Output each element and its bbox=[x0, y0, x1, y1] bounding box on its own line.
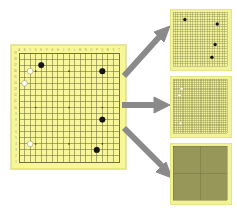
svg-text:19: 19 bbox=[14, 51, 17, 55]
svg-text:10: 10 bbox=[14, 106, 17, 110]
svg-text:H: H bbox=[57, 48, 59, 52]
board-grid-svg: ABCDEFGHJKLMNOPQRST191817161514131211109… bbox=[11, 45, 124, 167]
panel-fine-grid-svg bbox=[170, 143, 230, 203]
svg-text:17: 17 bbox=[14, 63, 17, 67]
svg-text:8: 8 bbox=[15, 118, 17, 122]
svg-text:N: N bbox=[85, 48, 87, 52]
panel-coarse-grid-svg bbox=[170, 9, 230, 69]
arrow-down-right-icon bbox=[120, 122, 176, 182]
svg-text:R: R bbox=[107, 48, 109, 52]
svg-text:3: 3 bbox=[15, 148, 17, 152]
svg-text:F: F bbox=[46, 48, 48, 52]
svg-text:B: B bbox=[24, 48, 26, 52]
svg-text:E: E bbox=[40, 48, 42, 52]
panel-mid-grid-svg bbox=[170, 76, 230, 136]
svg-text:6: 6 bbox=[15, 130, 17, 134]
board-grid: ABCDEFGHJKLMNOPQRST191817161514131211109… bbox=[11, 45, 124, 167]
svg-text:18: 18 bbox=[14, 57, 17, 61]
panel-coarse-lines bbox=[173, 12, 227, 66]
go-board[interactable]: ABCDEFGHJKLMNOPQRST191817161514131211109… bbox=[11, 45, 124, 167]
svg-text:K: K bbox=[68, 48, 70, 52]
panel-mid-grid bbox=[170, 76, 230, 136]
arrow-down-right bbox=[120, 122, 176, 182]
svg-text:5: 5 bbox=[15, 136, 17, 140]
svg-text:G: G bbox=[51, 48, 53, 52]
svg-text:13: 13 bbox=[14, 87, 17, 91]
arrow-up-right-icon bbox=[120, 22, 172, 80]
svg-text:D: D bbox=[35, 48, 37, 52]
panel-mid[interactable] bbox=[170, 76, 230, 136]
svg-text:S: S bbox=[113, 48, 115, 52]
svg-text:C: C bbox=[29, 48, 31, 52]
svg-text:14: 14 bbox=[14, 81, 17, 85]
svg-text:9: 9 bbox=[15, 112, 17, 116]
svg-text:15: 15 bbox=[14, 75, 17, 79]
panel-fine-grid bbox=[170, 143, 230, 203]
svg-text:A: A bbox=[18, 48, 20, 52]
figure-canvas: ABCDEFGHJKLMNOPQRST191817161514131211109… bbox=[0, 0, 237, 213]
arrow-up-right bbox=[120, 22, 172, 80]
panel-coarse-grid bbox=[170, 9, 230, 69]
panel-fine[interactable] bbox=[170, 143, 230, 203]
panel-coarse[interactable] bbox=[170, 9, 230, 69]
panel-fine-lines bbox=[173, 146, 227, 200]
svg-text:P: P bbox=[96, 48, 98, 52]
svg-text:16: 16 bbox=[14, 69, 17, 73]
arrow-right-icon bbox=[120, 92, 172, 118]
svg-text:M: M bbox=[79, 48, 81, 52]
arrow-right bbox=[120, 92, 172, 118]
svg-text:2: 2 bbox=[15, 154, 17, 158]
svg-text:O: O bbox=[90, 48, 92, 52]
svg-text:11: 11 bbox=[14, 99, 17, 103]
svg-text:4: 4 bbox=[15, 142, 17, 146]
svg-text:7: 7 bbox=[15, 124, 17, 128]
panel-mid-lines bbox=[173, 79, 227, 133]
svg-text:Q: Q bbox=[101, 48, 103, 52]
svg-text:J: J bbox=[63, 48, 65, 52]
svg-text:L: L bbox=[74, 48, 76, 52]
svg-text:12: 12 bbox=[14, 93, 17, 97]
svg-text:1: 1 bbox=[15, 160, 17, 164]
